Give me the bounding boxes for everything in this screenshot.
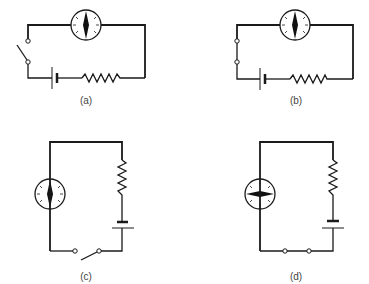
panel-label-c: (c) xyxy=(80,271,92,282)
resistor-icon xyxy=(329,160,337,221)
panel-label-b: (b) xyxy=(290,95,302,106)
circuit-a xyxy=(17,10,145,89)
switch-terminal xyxy=(235,60,239,64)
resistor-icon xyxy=(118,160,126,222)
circuit-c xyxy=(35,142,134,260)
panel-label-a: (a) xyxy=(80,95,92,106)
switch-open-icon xyxy=(81,252,97,260)
switch-terminal xyxy=(97,249,101,253)
switch-terminal xyxy=(26,60,30,64)
circuit-diagram xyxy=(0,0,369,284)
switch-open-icon xyxy=(17,45,27,60)
resistor-icon xyxy=(290,75,353,83)
switch-terminal xyxy=(307,249,311,253)
circuit-b xyxy=(235,10,353,90)
panel-label-d: (d) xyxy=(290,271,302,282)
resistor-icon xyxy=(82,74,145,82)
wire xyxy=(28,62,52,78)
wire xyxy=(101,228,122,251)
switch-terminal xyxy=(235,39,239,43)
wire xyxy=(260,228,333,251)
switch-terminal xyxy=(283,249,287,253)
circuit-d xyxy=(245,142,344,253)
compass-icon xyxy=(71,10,101,40)
switch-terminal xyxy=(26,39,30,43)
compass-icon xyxy=(280,10,310,40)
switch-terminal xyxy=(73,249,77,253)
wire xyxy=(237,40,260,79)
